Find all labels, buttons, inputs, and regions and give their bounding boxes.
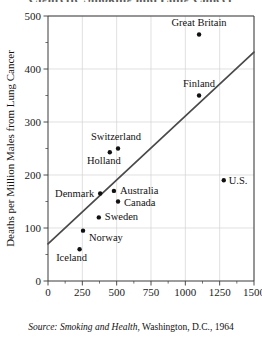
y-tick-label: 0 — [36, 275, 42, 287]
data-point-label: Australia — [120, 185, 159, 196]
data-point — [222, 178, 226, 182]
y-tick-label: 500 — [25, 10, 42, 22]
data-point — [97, 215, 101, 219]
y-tick-label: 100 — [25, 222, 42, 234]
x-tick-label: 0 — [45, 286, 51, 298]
data-point — [98, 191, 102, 195]
data-point-label: Denmark — [55, 188, 95, 199]
x-tick-label: 500 — [108, 286, 125, 298]
source-prefix: Source: — [28, 322, 57, 332]
data-point — [112, 189, 116, 193]
data-point — [116, 146, 120, 150]
x-tick-label: 1000 — [174, 286, 197, 298]
source-note: Source: Smoking and Health, Washington, … — [0, 322, 262, 332]
data-point — [108, 150, 112, 154]
data-point-label: Great Britain — [172, 17, 228, 28]
data-point-label: Finland — [183, 78, 216, 89]
x-tick-label: 750 — [143, 286, 160, 298]
data-point-label: Canada — [124, 197, 156, 208]
data-point-label: Norway — [89, 232, 124, 243]
x-tick-label: 1500 — [243, 286, 262, 298]
data-point — [197, 93, 201, 97]
y-tick-label: 200 — [25, 169, 42, 181]
data-point — [197, 32, 201, 36]
source-rest: , Washington, D.C., 1964 — [137, 322, 233, 332]
data-point-label: Holland — [87, 155, 122, 166]
y-axis-title: Deaths per Million Males from Lung Cance… — [4, 50, 16, 247]
data-point-label: U.S. — [229, 175, 248, 186]
data-point-label: Sweden — [105, 211, 139, 222]
x-tick-label: 1250 — [209, 286, 232, 298]
data-point-label: Switzerland — [91, 131, 142, 142]
x-tick-label: 250 — [74, 286, 91, 298]
y-tick-label: 400 — [25, 63, 42, 75]
source-publication: Smoking and Health — [60, 322, 138, 332]
chart-canvas: 02505007501000125015000100200300400500Gr… — [0, 0, 262, 300]
y-tick-label: 300 — [25, 116, 42, 128]
data-point-label: Iceland — [56, 252, 88, 263]
data-point — [81, 228, 85, 232]
scatter-plot-figure: Cigarette Smoking and Lung Cancer 025050… — [0, 0, 262, 345]
data-point — [77, 247, 81, 251]
data-point — [116, 199, 120, 203]
